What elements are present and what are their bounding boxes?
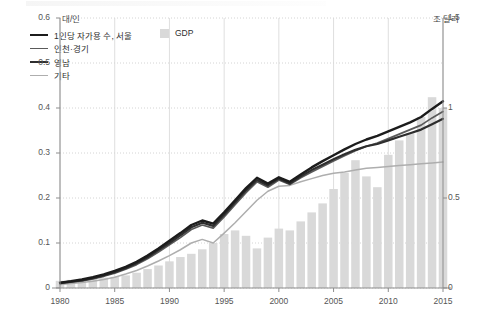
right-axis-tick-label: 0: [448, 282, 484, 292]
gdp-bar: [209, 243, 218, 288]
gdp-bar: [286, 230, 295, 288]
left-axis-tick-label: 0.2: [0, 192, 50, 202]
gdp-bar: [242, 236, 251, 288]
left-axis-tick-label: 0.1: [0, 237, 50, 247]
gdp-bar: [406, 133, 415, 288]
gdp-bar: [340, 173, 349, 288]
right-axis-tick-label: 1: [448, 102, 484, 112]
chart-canvas: [0, 0, 489, 320]
gdp-bar: [417, 117, 426, 288]
gdp-bar: [143, 269, 152, 288]
x-axis-tick-label: 1980: [37, 296, 83, 306]
gdp-bar: [198, 249, 207, 288]
gdp-bar: [187, 254, 196, 288]
left-axis-tick-label: 0.6: [0, 12, 50, 22]
gdp-bar: [362, 176, 371, 288]
x-axis-tick-label: 1995: [201, 296, 247, 306]
gdp-bar: [220, 234, 229, 288]
gdp-bar: [307, 212, 316, 288]
left-axis-tick-label: 0.5: [0, 57, 50, 67]
gdp-bar: [253, 248, 262, 288]
x-axis-tick-label: 2015: [420, 296, 466, 306]
gdp-bar: [329, 189, 338, 288]
gdp-bar: [351, 160, 360, 288]
gdp-bar: [318, 203, 327, 288]
gdp-bar: [296, 221, 305, 288]
gdp-bar: [132, 273, 141, 288]
left-axis-tick-label: 0: [0, 282, 50, 292]
gdp-bar: [275, 229, 284, 288]
gdp-bar: [165, 261, 174, 288]
x-axis-tick-label: 2000: [256, 296, 302, 306]
x-axis-tick-label: 1985: [92, 296, 138, 306]
gdp-bar: [121, 275, 130, 288]
gdp-bar: [264, 238, 273, 288]
gdp-bar: [154, 266, 163, 289]
gdp-bar: [176, 257, 185, 288]
gdp-bar: [373, 187, 382, 288]
left-axis-tick-label: 0.3: [0, 147, 50, 157]
x-axis-tick-label: 2010: [365, 296, 411, 306]
x-axis-tick-label: 1990: [146, 296, 192, 306]
gdp-bar: [231, 230, 240, 288]
right-axis-tick-label: 1.5: [448, 12, 484, 22]
gdp-bar: [384, 155, 393, 288]
x-axis-tick-label: 2005: [311, 296, 357, 306]
gdp-bar: [395, 140, 404, 288]
left-axis-tick-label: 0.4: [0, 102, 50, 112]
right-axis-tick-label: 0.5: [448, 192, 484, 202]
